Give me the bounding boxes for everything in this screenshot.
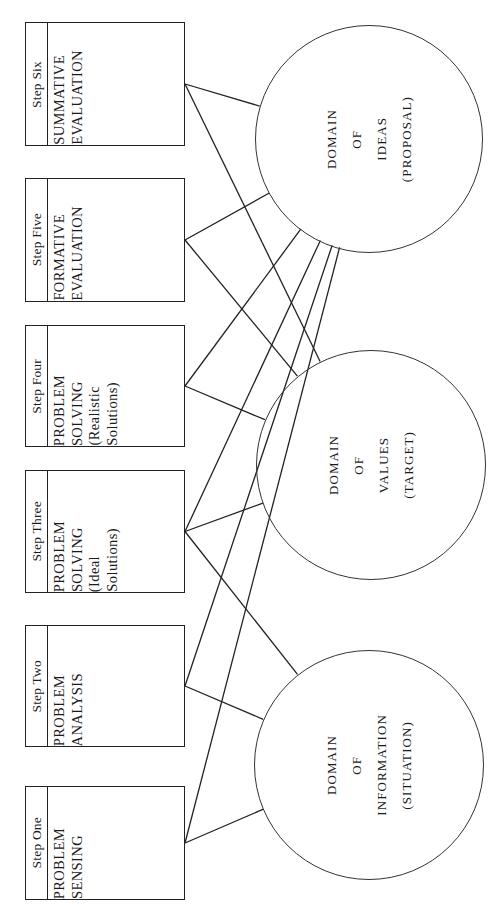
step-text-line: FORMATIVE	[52, 212, 67, 301]
step-box-step-five: Step FiveFORMATIVEEVALUATION	[25, 178, 185, 302]
step-body-step-two: PROBLEMANALYSIS	[48, 626, 184, 746]
circle-text-line: (PROPOSAL)	[400, 96, 413, 182]
circle-text-line: DOMAIN	[327, 435, 340, 495]
step-header-label: Step Five	[30, 213, 44, 266]
step-text-line: ANALYSIS	[70, 671, 85, 746]
connection-step-one-to-domain-information	[185, 809, 263, 843]
circle-label-group: DOMAINOFVALUES(TARGET)	[321, 431, 421, 499]
step-header-label: Step Six	[30, 61, 44, 108]
step-text-line: EVALUATION	[70, 204, 85, 301]
step-text-line: SENSING	[70, 833, 85, 899]
step-text-line: PROBLEM	[52, 373, 67, 446]
diagram-canvas: Step SixSUMMATIVEEVALUATIONStep FiveFORM…	[0, 0, 498, 904]
circle-domain-ideas: DOMAINOFIDEAS(PROPOSAL)	[255, 25, 483, 253]
connection-step-five-to-domain-values	[185, 240, 297, 376]
circle-text-line: IDEAS	[375, 117, 388, 161]
step-header-label: Step Three	[30, 501, 44, 562]
step-box-step-four: Step FourPROBLEMSOLVING(RealisticSolutio…	[25, 325, 185, 447]
circle-text-line: (TARGET)	[402, 431, 415, 499]
step-body-step-six: SUMMATIVEEVALUATION	[48, 23, 184, 145]
step-text-line: Solutions)	[105, 526, 120, 592]
step-header-step-one: Step One	[26, 787, 48, 899]
circle-text-line: OF	[350, 756, 363, 775]
step-text-line: SOLVING	[70, 525, 85, 592]
step-header-label: Step One	[30, 817, 44, 868]
circle-text-line: DOMAIN	[325, 109, 338, 169]
circle-domain-information: DOMAINOFINFORMATION(SITUATION)	[254, 650, 484, 880]
circle-label-group: DOMAINOFINFORMATION(SITUATION)	[319, 714, 419, 816]
circle-text-line: OF	[352, 456, 365, 475]
step-text-line: Solutions)	[105, 380, 120, 446]
circle-text-line: OF	[350, 130, 363, 149]
step-text-line: EVALUATION	[70, 48, 85, 145]
step-header-step-three: Step Three	[26, 471, 48, 592]
circle-text-line: DOMAIN	[325, 735, 338, 795]
step-header-label: Step Two	[30, 660, 44, 713]
step-box-step-one: Step OnePROBLEMSENSING	[25, 786, 185, 900]
step-text-line: (Ideal	[87, 554, 102, 592]
connection-step-three-to-domain-information	[185, 532, 297, 675]
step-text-line: PROBLEM	[52, 673, 67, 746]
step-body-step-one: PROBLEMSENSING	[48, 787, 184, 899]
step-header-step-five: Step Five	[26, 179, 48, 301]
step-body-step-five: FORMATIVEEVALUATION	[48, 179, 184, 301]
step-text-line: (Realistic	[87, 384, 102, 446]
connection-step-four-to-domain-values	[185, 386, 265, 420]
step-body-step-four: PROBLEMSOLVING(RealisticSolutions)	[48, 326, 184, 446]
circle-text-line: INFORMATION	[375, 714, 388, 816]
step-text-line: PROBLEM	[52, 519, 67, 592]
circle-domain-values: DOMAINOFVALUES(TARGET)	[256, 350, 486, 580]
connection-step-six-to-domain-ideas	[185, 84, 260, 106]
step-body-step-three: PROBLEMSOLVING(IdealSolutions)	[48, 471, 184, 592]
connection-step-five-to-domain-ideas	[185, 193, 269, 240]
connection-step-four-to-domain-ideas	[185, 229, 301, 386]
step-text-line: SOLVING	[70, 379, 85, 446]
step-box-step-three: Step ThreePROBLEMSOLVING(IdealSolutions)	[25, 470, 185, 593]
circle-text-line: VALUES	[377, 437, 390, 493]
step-header-step-six: Step Six	[26, 23, 48, 145]
step-header-step-four: Step Four	[26, 326, 48, 446]
circle-text-line: (SITUATION)	[400, 721, 413, 810]
step-text-line: PROBLEM	[52, 826, 67, 899]
step-box-step-two: Step TwoPROBLEMANALYSIS	[25, 625, 185, 747]
step-box-step-six: Step SixSUMMATIVEEVALUATION	[25, 22, 185, 146]
circle-label-group: DOMAINOFIDEAS(PROPOSAL)	[319, 96, 419, 182]
step-text-line: SUMMATIVE	[52, 53, 67, 145]
step-header-label: Step Four	[30, 359, 44, 414]
step-header-step-two: Step Two	[26, 626, 48, 746]
